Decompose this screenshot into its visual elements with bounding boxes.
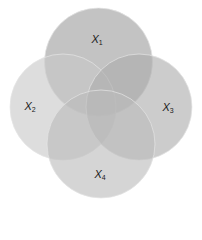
set-label-x3-subscript: 3 [170, 107, 174, 114]
set-label-x3: X3 [162, 102, 173, 114]
set-label-x2-subscript: 2 [32, 106, 36, 113]
set-circle-x4 [47, 90, 155, 198]
set-label-x1: X1 [91, 34, 102, 46]
set-label-x2: X2 [24, 101, 35, 113]
set-label-x1-subscript: 1 [99, 39, 103, 46]
set-label-x4-subscript: 4 [102, 174, 106, 181]
set-label-x4: X4 [94, 169, 105, 181]
